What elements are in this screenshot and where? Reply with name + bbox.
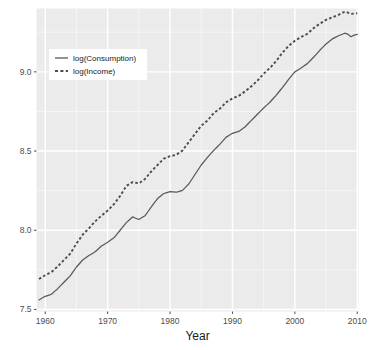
x-axis: 196019701980199020002010 xyxy=(36,312,367,326)
legend-item-label[interactable]: log(Income) xyxy=(73,67,116,76)
y-axis-tick-label: 7.5 xyxy=(20,304,32,314)
y-axis-tick-label: 8.0 xyxy=(20,225,32,235)
x-axis-tick-label: 1990 xyxy=(223,316,242,326)
x-axis-title: Year xyxy=(185,329,209,343)
y-axis-tick-label: 9.0 xyxy=(20,67,32,77)
y-axis-tick-label: 8.5 xyxy=(20,146,32,156)
y-axis: 7.58.08.59.0 xyxy=(20,67,37,315)
line-chart: 7.58.08.59.0196019701980199020002010Year… xyxy=(0,0,379,350)
x-axis-tick-label: 1980 xyxy=(161,316,180,326)
legend-item-label[interactable]: log(Consumption) xyxy=(73,54,136,63)
legend[interactable]: log(Consumption)log(Income) xyxy=(49,49,147,80)
chart-container: 7.58.08.59.0196019701980199020002010Year… xyxy=(0,0,379,350)
x-axis-tick-label: 1970 xyxy=(98,316,117,326)
x-axis-tick-label: 2000 xyxy=(285,316,304,326)
x-axis-tick-label: 2010 xyxy=(348,316,367,326)
x-axis-tick-label: 1960 xyxy=(36,316,55,326)
